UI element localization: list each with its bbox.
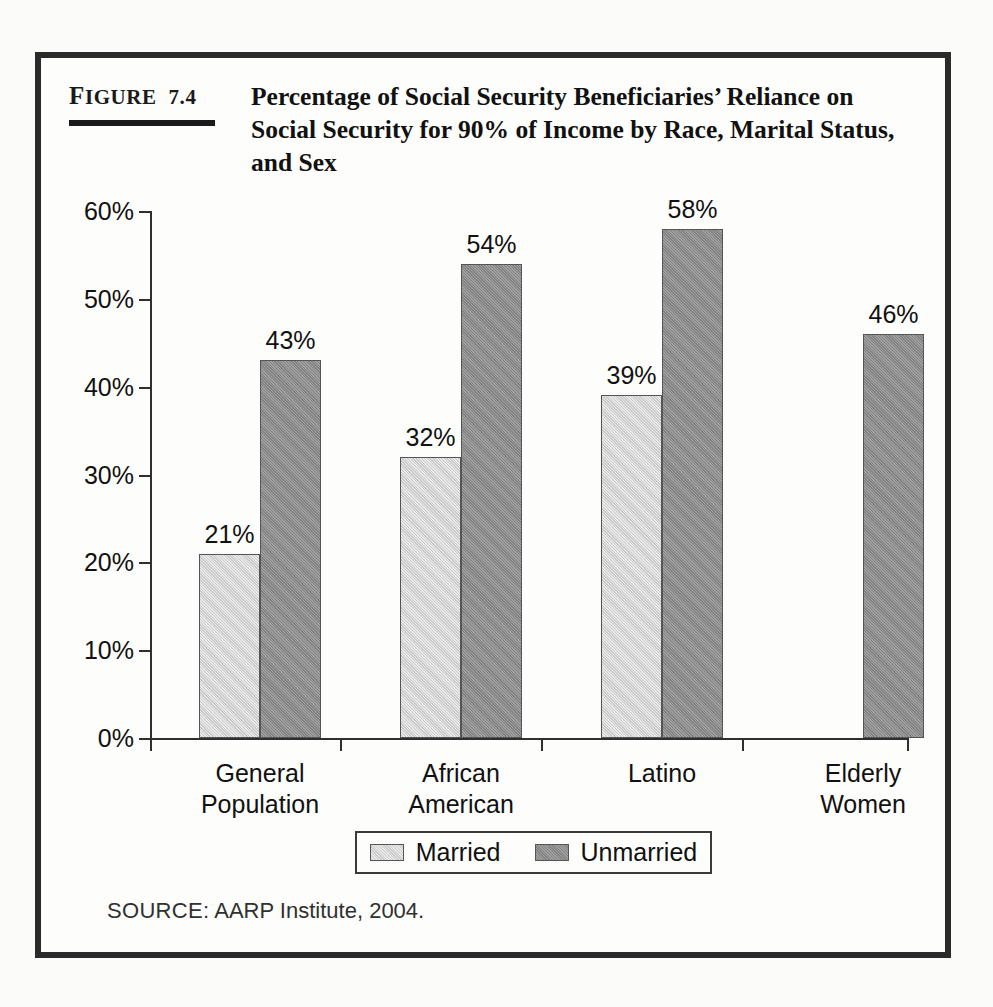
x-axis-tick	[742, 740, 744, 751]
y-axis-line	[150, 211, 152, 740]
y-axis-label: 20%	[84, 548, 134, 577]
legend-item-married: Married	[370, 838, 501, 867]
chart-legend: Married Unmarried	[355, 831, 712, 874]
y-axis-tick	[139, 387, 150, 389]
x-axis-tick	[907, 740, 909, 751]
bar-chart: 0%10%20%30%40%50%60% 21%43%32%54%39%58%4…	[41, 58, 945, 952]
bar-value-label: 43%	[265, 326, 315, 355]
legend-label-married: Married	[416, 838, 501, 867]
x-axis-category-line: African	[408, 758, 514, 789]
y-axis-tick	[139, 562, 150, 564]
legend-label-unmarried: Unmarried	[581, 838, 698, 867]
x-axis-line	[150, 738, 909, 740]
bar-value-label: 32%	[405, 423, 455, 452]
x-axis-category-label: AfricanAmerican	[408, 758, 514, 820]
x-axis-category-label: ElderlyWomen	[820, 758, 906, 820]
bar-value-label: 21%	[204, 520, 254, 549]
bar-married-general-population: 21%	[199, 554, 260, 738]
bar-married-african-american: 32%	[400, 457, 461, 738]
legend-item-unmarried: Unmarried	[535, 838, 698, 867]
x-axis-tick	[340, 740, 342, 751]
figure-frame: FIGURE 7.4 Percentage of Social Security…	[35, 52, 951, 958]
x-axis-category-line: Population	[201, 789, 319, 820]
bar-unmarried-general-population: 43%	[260, 360, 321, 738]
y-axis-label: 10%	[84, 636, 134, 665]
y-axis-label: 40%	[84, 372, 134, 401]
y-axis-label: 60%	[84, 197, 134, 226]
bar-unmarried-african-american: 54%	[461, 264, 522, 738]
bar-value-label: 39%	[606, 361, 656, 390]
x-axis-category-label: GeneralPopulation	[201, 758, 319, 820]
bar-married-latino: 39%	[601, 395, 662, 738]
x-axis-tick	[541, 740, 543, 751]
y-axis-tick	[139, 738, 150, 740]
source-note: SOURCE: AARP Institute, 2004.	[107, 898, 424, 924]
x-axis-category-line: Latino	[628, 758, 696, 789]
x-axis-category-line: Women	[820, 789, 906, 820]
bar-value-label: 54%	[466, 230, 516, 259]
y-axis-label: 50%	[84, 284, 134, 313]
source-label: SOURCE:	[107, 898, 209, 923]
x-axis-tick	[150, 740, 152, 751]
bar-value-label: 46%	[868, 300, 918, 329]
x-axis-category-line: American	[408, 789, 514, 820]
bar-unmarried-latino: 58%	[662, 229, 723, 738]
y-axis-tick	[139, 211, 150, 213]
y-axis-tick	[139, 650, 150, 652]
bar-value-label: 58%	[667, 195, 717, 224]
legend-swatch-unmarried-icon	[535, 844, 569, 861]
y-axis-label: 30%	[84, 460, 134, 489]
x-axis-category-line: General	[201, 758, 319, 789]
y-axis-label: 0%	[98, 724, 134, 753]
source-text: AARP Institute, 2004.	[214, 898, 424, 923]
legend-swatch-married-icon	[370, 844, 404, 861]
x-axis-category-line: Elderly	[820, 758, 906, 789]
y-axis-tick	[139, 299, 150, 301]
bar-unmarried-elderly-women: 46%	[863, 334, 924, 738]
y-axis-tick	[139, 475, 150, 477]
x-axis-category-label: Latino	[628, 758, 696, 789]
plot-area: 0%10%20%30%40%50%60% 21%43%32%54%39%58%4…	[150, 211, 909, 740]
